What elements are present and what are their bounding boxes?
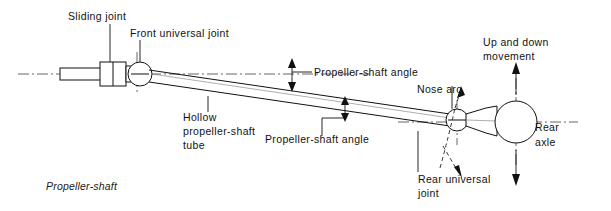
- lower-angle-arrow-up-icon: [341, 96, 349, 105]
- arrow-down-icon: [512, 174, 520, 186]
- label-nose-arc: Nose arc: [417, 83, 462, 95]
- label-rear-universal-joint-line1: Rear universal: [418, 173, 491, 185]
- label-rear-universal-joint-line2: joint: [417, 187, 439, 199]
- label-sliding-joint: Sliding joint: [68, 10, 126, 22]
- label-hollow-tube-line1: Hollow: [183, 111, 217, 123]
- output-shaft-stub: [60, 68, 104, 80]
- gearbox-output-shaft: [60, 62, 133, 86]
- propeller-shaft-angle-upper-dimension: [288, 58, 312, 92]
- label-propeller-shaft-angle-lower: Propeller-shaft angle: [265, 133, 369, 145]
- pinion-nose-housing: [466, 106, 497, 136]
- arrow-up-icon: [512, 62, 520, 74]
- rear-axle: [495, 101, 537, 143]
- rear-universal-joint: [446, 109, 468, 131]
- rear-axle-circle: [495, 101, 537, 143]
- label-up-and-down-line2: movement: [483, 50, 535, 62]
- nose-arc-indicator: [440, 86, 465, 178]
- upper-angle-arrow-up-icon: [288, 58, 296, 68]
- label-rear-axle-line1: Rear: [535, 121, 559, 133]
- label-up-and-down-line1: Up and down: [483, 36, 549, 48]
- propeller-shaft-angle-lower-dimension: [322, 96, 349, 136]
- nose-arc-curve-lower: [443, 146, 457, 170]
- figure-caption: Propeller-shaft: [46, 180, 118, 192]
- label-hollow-tube-line3: tube: [183, 139, 205, 151]
- lower-angle-arrow-down-icon: [341, 113, 349, 122]
- label-leaders: [110, 24, 452, 172]
- figure-propeller-shaft: Sliding joint Front universal joint Prop…: [0, 0, 611, 211]
- front-universal-joint: [128, 62, 152, 86]
- propeller-shaft-diagram: Sliding joint Front universal joint Prop…: [0, 0, 611, 211]
- label-rear-axle-line2: axle: [535, 136, 556, 148]
- label-hollow-tube-line2: propeller-shaft: [183, 125, 255, 137]
- label-front-universal-joint: Front universal joint: [130, 27, 229, 39]
- label-propeller-shaft-angle-upper: Propeller-shaft angle: [314, 66, 418, 78]
